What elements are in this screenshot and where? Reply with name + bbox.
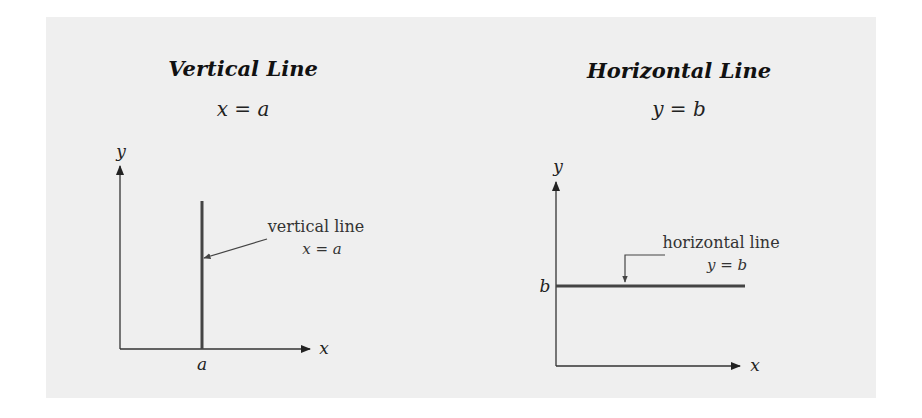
- vertical-line-equation: x = a: [217, 97, 270, 121]
- callout-text: horizontal line: [662, 233, 779, 252]
- horizontal-line-title: Horizontal Line: [586, 58, 771, 83]
- callout-arrow: [625, 255, 665, 282]
- y-axis-label: y: [552, 156, 563, 176]
- vertical-line-figure: Vertical Line x = a y x a vertical line …: [115, 56, 364, 374]
- callout-arrow: [204, 239, 267, 258]
- tick-label-b: b: [540, 276, 551, 296]
- tick-label-a: a: [197, 354, 207, 374]
- vertical-line-title: Vertical Line: [168, 56, 318, 81]
- callout-equation: y = b: [706, 256, 747, 274]
- y-axis-label: y: [115, 141, 126, 161]
- callout-text: vertical line: [267, 217, 364, 236]
- horizontal-line-equation: y = b: [651, 97, 706, 121]
- diagram-canvas: Vertical Line x = a y x a vertical line …: [0, 0, 922, 418]
- horizontal-line-figure: Horizontal Line y = b y x b horizontal l…: [540, 58, 780, 375]
- x-axis-label: x: [319, 338, 329, 358]
- x-axis-label: x: [750, 355, 760, 375]
- callout-equation: x = a: [302, 240, 342, 258]
